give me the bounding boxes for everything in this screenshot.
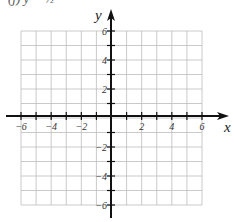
y-axis-label: y	[93, 7, 102, 23]
y-tick-label: 4	[102, 55, 107, 66]
coordinate-grid: −6−4−2246642−2−4−6xy	[0, 0, 234, 222]
x-tick-label: 6	[200, 121, 205, 132]
y-tick-label: 6	[102, 26, 107, 37]
x-tick-label: −4	[45, 121, 57, 132]
x-tick-label: −6	[15, 121, 27, 132]
x-tick-label: 4	[169, 121, 174, 132]
y-tick-label: −2	[95, 142, 107, 153]
x-tick-label: −2	[75, 121, 87, 132]
x-axis-label: x	[223, 119, 231, 135]
y-tick-label: 2	[102, 84, 107, 95]
y-tick-label: −6	[95, 200, 107, 211]
y-tick-label: −4	[95, 171, 107, 182]
x-tick-label: 2	[139, 121, 144, 132]
